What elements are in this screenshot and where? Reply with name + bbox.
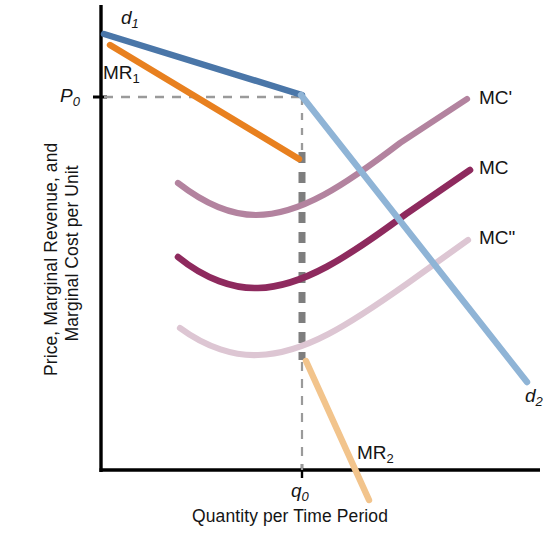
d2-curve-label: d2: [525, 386, 543, 405]
q0-subscript: 0: [302, 489, 309, 504]
x-axis-title: Quantity per Time Period: [100, 508, 480, 526]
y-tick-label-p0: P0: [60, 86, 80, 105]
y-axis-title-line2: Marginal Cost per Unit: [62, 109, 83, 409]
mr2-line: [306, 361, 369, 500]
mr2-symbol: MR: [357, 442, 387, 463]
mc-prime-curve: [178, 99, 467, 215]
x-tick-label-q0: q0: [291, 481, 309, 500]
d2-subscript: 2: [536, 394, 543, 409]
mc-prime-curve-label: MC': [479, 88, 512, 107]
p0-symbol: P: [60, 85, 73, 106]
y-axis-title-line1: Price, Marginal Revenue, and: [41, 143, 61, 376]
mr1-curve-label: MR1: [103, 63, 140, 82]
p0-subscript: 0: [73, 94, 80, 109]
d1-symbol: d: [121, 7, 132, 28]
q0-symbol: q: [291, 480, 302, 501]
mc-double-prime-curve-label: MC": [479, 228, 515, 247]
d2-symbol: d: [525, 385, 536, 406]
mc-curve-label: MC: [479, 158, 509, 177]
y-axis-title: Price, Marginal Revenue, and Marginal Co…: [41, 109, 84, 409]
mr2-subscript: 2: [387, 451, 394, 466]
mr1-subscript: 1: [133, 71, 140, 86]
marginal-cost-curves-group: [178, 99, 470, 355]
mr2-curve-label: MR2: [357, 443, 394, 462]
kinked-demand-curve-figure: Price, Marginal Revenue, and Marginal Co…: [0, 0, 550, 534]
mr1-symbol: MR: [103, 62, 133, 83]
d1-curve-label: d1: [121, 8, 139, 27]
d1-subscript: 1: [132, 16, 139, 31]
